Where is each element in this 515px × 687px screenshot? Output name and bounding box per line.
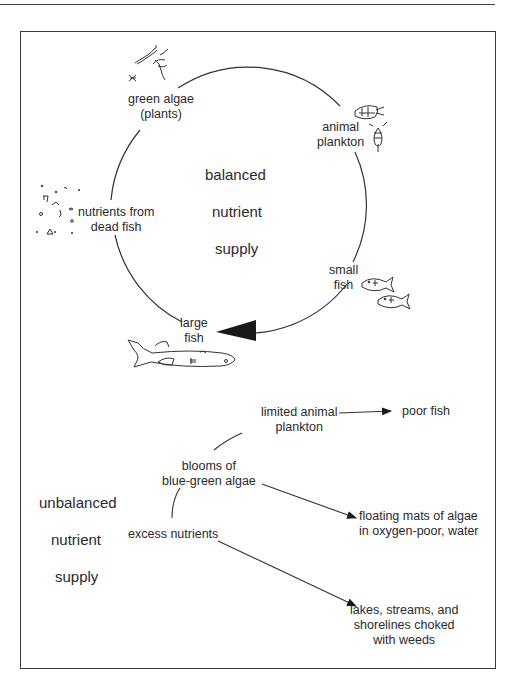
node-label-line: with weeds — [350, 633, 458, 648]
node-large-fish: large fish — [180, 316, 208, 346]
small-fish-icon — [362, 277, 410, 309]
unbalanced-title-line-3: supply — [55, 568, 98, 585]
node-animal-plankton: animal plankton — [317, 120, 364, 150]
node-label-line: small — [329, 263, 358, 278]
algae-icon — [129, 45, 168, 81]
edge-nutrients-to-algae — [111, 130, 140, 200]
node-label-line: animal — [317, 120, 364, 135]
node-label-line: fish — [329, 278, 358, 293]
node-label-line: in oxygen-poor, water — [359, 524, 479, 539]
balanced-title-line-2: nutrient — [212, 203, 262, 220]
edge-excess-to-blooms — [172, 488, 180, 518]
node-nutrients-dead-fish: nutrients from dead fish — [78, 205, 154, 235]
node-blooms: blooms of blue-green algae — [162, 459, 256, 489]
node-label-line: (plants) — [128, 107, 194, 122]
edge-plankton-to-poorfish — [339, 411, 391, 413]
node-floating-mats: floating mats of algae in oxygen-poor, w… — [359, 509, 479, 539]
node-small-fish: small fish — [329, 263, 358, 293]
node-label-line: floating mats of algae — [359, 509, 479, 524]
edge-largefish-to-nutrients — [115, 235, 182, 322]
debris-icon — [36, 185, 79, 234]
node-limited-plankton: limited animal plankton — [261, 405, 337, 435]
node-label-line: plankton — [261, 420, 337, 435]
edge-plankton-to-smallfish — [353, 152, 366, 262]
node-poor-fish: poor fish — [402, 404, 450, 419]
unbalanced-title-line-2: nutrient — [51, 531, 101, 548]
node-label-line: dead fish — [78, 220, 154, 235]
unbalanced-title-line-1: unbalanced — [39, 494, 117, 511]
node-label-line: poor fish — [402, 404, 450, 419]
node-label-line: excess nutrients — [128, 527, 218, 542]
node-label-line: nutrients from — [78, 205, 154, 220]
balanced-title-line-3: supply — [215, 240, 258, 257]
node-label-line: plankton — [317, 135, 364, 150]
edge-blooms-to-floatingmats — [262, 484, 356, 518]
balanced-title-line-1: balanced — [205, 166, 266, 183]
node-excess-nutrients: excess nutrients — [128, 527, 218, 542]
node-label-line: lakes, streams, and — [350, 603, 458, 618]
node-choked: lakes, streams, and shorelines choked wi… — [350, 603, 458, 648]
node-label-line: fish — [180, 331, 208, 346]
node-label-line: large — [180, 316, 208, 331]
node-label-line: limited animal — [261, 405, 337, 420]
edge-blooms-to-plankton — [214, 433, 242, 450]
node-label-line: blooms of — [162, 459, 256, 474]
edge-excess-to-choked — [218, 541, 356, 606]
edge-algae-to-plankton — [178, 67, 340, 106]
cycle-arrowhead — [216, 320, 256, 341]
node-label-line: blue-green algae — [162, 474, 256, 489]
node-label-line: shorelines choked — [350, 618, 458, 633]
node-green-algae: green algae (plants) — [128, 92, 194, 122]
node-label-line: green algae — [128, 92, 194, 107]
